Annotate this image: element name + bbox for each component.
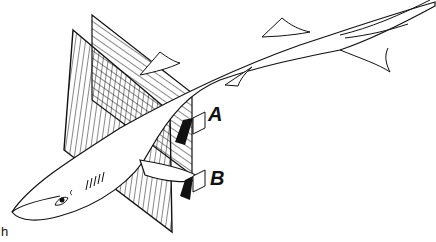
label-b: B — [210, 167, 224, 190]
dorsal-fin — [262, 18, 310, 37]
tail-lower — [340, 48, 390, 72]
corner-label: h — [1, 224, 8, 239]
label-a: A — [208, 103, 222, 126]
